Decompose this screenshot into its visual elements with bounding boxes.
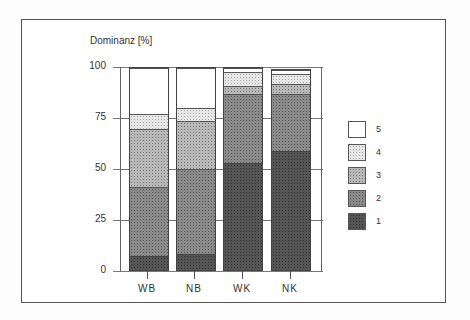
x-label-nb: NB <box>174 283 214 294</box>
x-tick-wk <box>242 271 243 279</box>
bar-nb <box>176 67 216 271</box>
bar-segment-nb-1 <box>177 254 215 270</box>
bar-segment-wb-1 <box>130 256 168 270</box>
legend-swatch-1 <box>348 213 366 230</box>
legend-swatch-4 <box>348 144 366 161</box>
x-tick-nk <box>290 271 291 279</box>
x-tick-nb <box>194 271 195 279</box>
y-tick-100: 100 <box>80 60 106 71</box>
bar-segment-nk-2 <box>272 94 310 151</box>
bar-segment-wb-2 <box>130 187 168 256</box>
y-tick-50: 50 <box>80 162 106 173</box>
bar-segment-nb-4 <box>177 108 215 120</box>
bar-segment-nb-5 <box>177 68 215 108</box>
y-axis-label: Dominanz [%] <box>90 35 152 46</box>
x-label-wk: WK <box>222 283 262 294</box>
gridline-0 <box>113 271 323 272</box>
bar-segment-wk-3 <box>224 86 262 94</box>
legend-swatch-5 <box>348 121 366 138</box>
bar-segment-nk-3 <box>272 84 310 94</box>
legend-swatch-3 <box>348 167 366 184</box>
bar-segment-wb-4 <box>130 114 168 128</box>
legend-label-5: 5 <box>376 124 381 134</box>
bar-segment-wb-5 <box>130 68 168 114</box>
legend-label-4: 4 <box>376 147 381 157</box>
x-label-nk: NK <box>270 283 310 294</box>
x-label-wb: WB <box>127 283 167 294</box>
y-tick-0: 0 <box>80 264 106 275</box>
bar-segment-nk-4 <box>272 74 310 84</box>
legend-swatch-2 <box>348 190 366 207</box>
y-tick-75: 75 <box>80 111 106 122</box>
plot-area <box>120 67 322 271</box>
bar-wb <box>129 67 169 271</box>
bar-segment-nk-1 <box>272 151 310 270</box>
x-tick-wb <box>147 271 148 279</box>
bar-segment-nb-2 <box>177 169 215 254</box>
y-tick-25: 25 <box>80 213 106 224</box>
legend-label-1: 1 <box>376 216 381 226</box>
bar-segment-wk-1 <box>224 163 262 270</box>
bar-nk <box>271 69 311 271</box>
legend-label-3: 3 <box>376 170 381 180</box>
bar-segment-wk-4 <box>224 72 262 86</box>
bar-wk <box>223 67 263 271</box>
bar-segment-wk-2 <box>224 94 262 163</box>
bar-segment-wb-3 <box>130 129 168 188</box>
legend-label-2: 2 <box>376 193 381 203</box>
bar-segment-nb-3 <box>177 121 215 169</box>
